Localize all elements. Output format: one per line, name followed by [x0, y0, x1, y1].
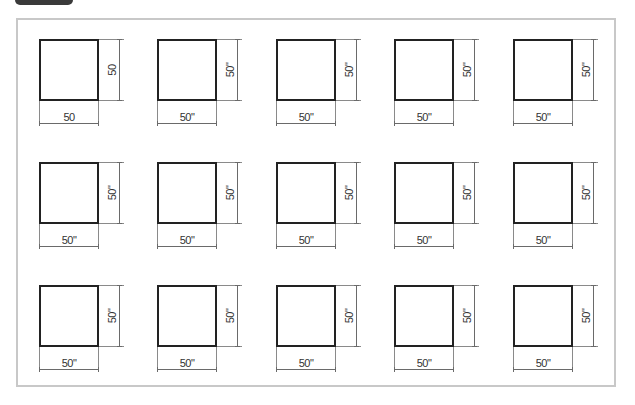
width-label: 50" — [39, 234, 99, 246]
dimensioned-square: 50"50" — [513, 162, 613, 262]
height-label: 50" — [461, 162, 473, 224]
width-dimension-line — [394, 369, 454, 370]
width-dimension-line — [394, 246, 454, 247]
height-dimension-line — [593, 39, 594, 101]
height-label: 50" — [580, 285, 592, 347]
width-label: 50" — [513, 234, 573, 246]
width-label: 50" — [513, 357, 573, 369]
height-label: 50" — [580, 162, 592, 224]
width-label: 50" — [157, 357, 217, 369]
dimensioned-square: 50"50" — [513, 39, 613, 139]
square-outline — [513, 285, 573, 347]
square-outline — [394, 39, 454, 101]
dimensioned-square: 50"50" — [39, 285, 139, 385]
square-outline — [276, 39, 336, 101]
height-dimension-line — [356, 162, 357, 224]
height-dimension-line — [237, 285, 238, 347]
square-outline — [157, 39, 217, 101]
width-dimension-line — [157, 369, 217, 370]
height-label: 50" — [461, 285, 473, 347]
square-outline — [39, 162, 99, 224]
dimensioned-square: 50"50" — [276, 162, 376, 262]
width-dimension-line — [39, 369, 99, 370]
width-dimension-line — [276, 246, 336, 247]
square-outline — [276, 162, 336, 224]
height-dimension-line — [119, 39, 120, 101]
dimensioned-square: 50"50" — [157, 162, 257, 262]
dimensioned-square: 50"50" — [157, 39, 257, 139]
height-dimension-line — [237, 39, 238, 101]
dimensioned-square: 5050 — [39, 39, 139, 139]
height-label: 50" — [343, 162, 355, 224]
height-dimension-line — [237, 162, 238, 224]
width-dimension-line — [276, 369, 336, 370]
height-dimension-line — [356, 285, 357, 347]
width-dimension-line — [39, 246, 99, 247]
height-label: 50" — [224, 285, 236, 347]
width-label: 50" — [394, 111, 454, 123]
height-dimension-line — [593, 285, 594, 347]
height-label: 50" — [461, 39, 473, 101]
width-label: 50" — [157, 234, 217, 246]
height-dimension-line — [474, 285, 475, 347]
height-label: 50" — [106, 162, 118, 224]
width-dimension-line — [157, 123, 217, 124]
width-label: 50" — [394, 357, 454, 369]
width-label: 50 — [39, 111, 99, 123]
height-label: 50" — [343, 39, 355, 101]
width-dimension-line — [513, 123, 573, 124]
square-outline — [394, 285, 454, 347]
height-dimension-line — [119, 162, 120, 224]
dimensioned-square: 50"50" — [394, 39, 494, 139]
square-outline — [513, 162, 573, 224]
height-dimension-line — [119, 285, 120, 347]
width-label: 50" — [276, 111, 336, 123]
square-outline — [39, 39, 99, 101]
width-dimension-line — [513, 369, 573, 370]
height-label: 50" — [224, 162, 236, 224]
width-dimension-line — [157, 246, 217, 247]
height-label: 50" — [224, 39, 236, 101]
width-label: 50" — [276, 357, 336, 369]
dimensioned-square: 50"50" — [157, 285, 257, 385]
width-dimension-line — [394, 123, 454, 124]
dimensioned-square: 50"50" — [394, 285, 494, 385]
dimensioned-square: 50"50" — [394, 162, 494, 262]
width-label: 50" — [394, 234, 454, 246]
height-dimension-line — [474, 39, 475, 101]
square-outline — [157, 162, 217, 224]
height-label: 50" — [580, 39, 592, 101]
width-dimension-line — [39, 123, 99, 124]
height-label: 50 — [106, 39, 118, 101]
height-dimension-line — [474, 162, 475, 224]
width-label: 50" — [39, 357, 99, 369]
dimensioned-square: 50"50" — [276, 285, 376, 385]
square-outline — [39, 285, 99, 347]
square-outline — [513, 39, 573, 101]
width-dimension-line — [276, 123, 336, 124]
dimensioned-square: 50"50" — [513, 285, 613, 385]
width-dimension-line — [513, 246, 573, 247]
dimensioned-square: 50"50" — [39, 162, 139, 262]
dimensioned-square: 50"50" — [276, 39, 376, 139]
height-label: 50" — [106, 285, 118, 347]
square-outline — [157, 285, 217, 347]
square-outline — [276, 285, 336, 347]
header-tab — [15, 0, 73, 5]
width-label: 50" — [513, 111, 573, 123]
height-dimension-line — [356, 39, 357, 101]
width-label: 50" — [157, 111, 217, 123]
height-label: 50" — [343, 285, 355, 347]
square-outline — [394, 162, 454, 224]
width-label: 50" — [276, 234, 336, 246]
height-dimension-line — [593, 162, 594, 224]
